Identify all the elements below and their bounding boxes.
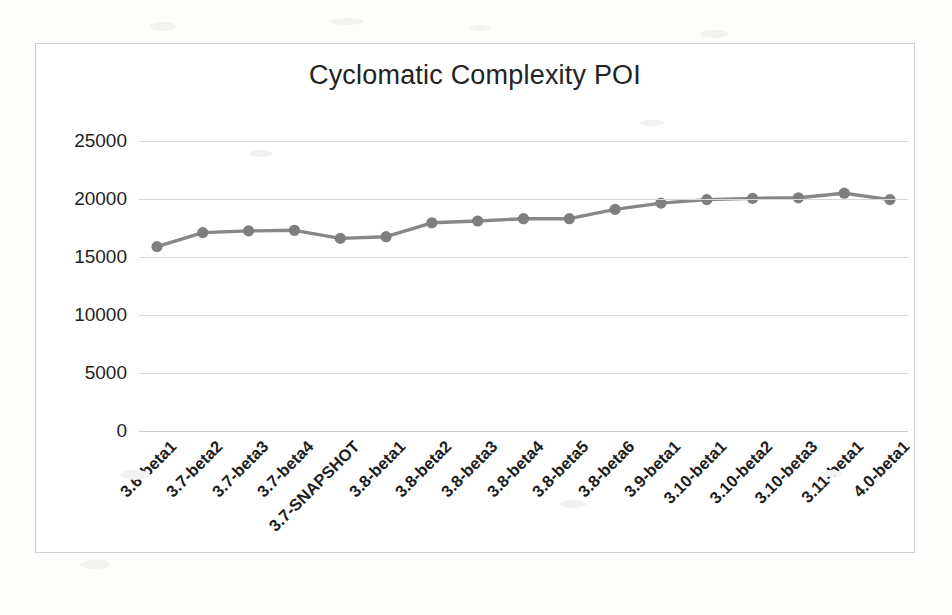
data-point[interactable] xyxy=(381,231,392,242)
gridline xyxy=(139,141,908,142)
gridline xyxy=(139,257,908,258)
data-point[interactable] xyxy=(610,204,621,215)
y-axis-tick-label: 15000 xyxy=(74,246,127,268)
gridline xyxy=(139,431,908,432)
x-axis-labels: 3.6-beta13.7-beta23.7-beta33.7-beta43.7-… xyxy=(139,437,908,557)
data-point[interactable] xyxy=(564,213,575,224)
data-point[interactable] xyxy=(243,225,254,236)
y-axis-tick-label: 20000 xyxy=(74,188,127,210)
data-point[interactable] xyxy=(289,225,300,236)
data-point[interactable] xyxy=(518,213,529,224)
gridline xyxy=(139,315,908,316)
series-layer xyxy=(139,141,908,431)
data-point[interactable] xyxy=(839,188,850,199)
data-point[interactable] xyxy=(472,215,483,226)
y-axis-tick-label: 10000 xyxy=(74,304,127,326)
chart-title: Cyclomatic Complexity POI xyxy=(36,60,914,91)
gridline xyxy=(139,373,908,374)
gridline xyxy=(139,199,908,200)
y-axis-tick-label: 25000 xyxy=(74,130,127,152)
data-point[interactable] xyxy=(335,233,346,244)
chart-figure: Cyclomatic Complexity POI 05000100001500… xyxy=(35,43,915,553)
y-axis-tick-label: 0 xyxy=(116,420,127,442)
data-point[interactable] xyxy=(197,227,208,238)
y-axis-tick-label: 5000 xyxy=(85,362,127,384)
data-point[interactable] xyxy=(151,241,162,252)
data-point[interactable] xyxy=(426,217,437,228)
data-point[interactable] xyxy=(793,192,804,203)
plot-area: 0500010000150002000025000 xyxy=(139,141,908,431)
